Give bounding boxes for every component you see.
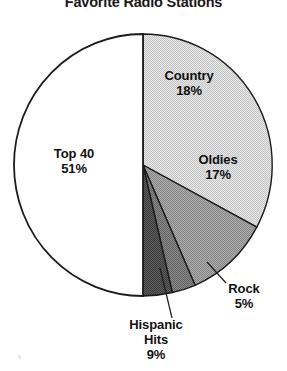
slice-label-top40-value: 51% (34, 161, 114, 176)
pie-chart-graphic (0, 0, 287, 371)
slice-label-top40: Top 40 51% (34, 146, 114, 176)
slice-label-country-value: 18% (150, 83, 228, 98)
slice-label-hispanic-hits-name-line2: Hits (117, 332, 195, 347)
watermark-mark: s (18, 352, 21, 361)
slice-label-oldies: Oldies 17% (182, 152, 254, 182)
slice-label-hispanic-hits: Hispanic Hits 9% (117, 317, 195, 362)
slice-label-oldies-name: Oldies (198, 152, 237, 167)
pie-chart: Favorite Radio Stations (0, 0, 287, 371)
slice-label-top40-name: Top 40 (54, 146, 94, 161)
slice-label-hispanic-hits-value: 9% (117, 347, 195, 362)
slice-label-country-name: Country (164, 68, 213, 83)
slice-label-oldies-value: 17% (182, 167, 254, 182)
slice-label-rock: Rock 5% (218, 281, 270, 311)
slice-label-rock-name: Rock (228, 281, 259, 296)
slice-label-country: Country 18% (150, 68, 228, 98)
slice-label-hispanic-hits-name-line1: Hispanic (129, 317, 182, 332)
slice-label-rock-value: 5% (218, 296, 270, 311)
